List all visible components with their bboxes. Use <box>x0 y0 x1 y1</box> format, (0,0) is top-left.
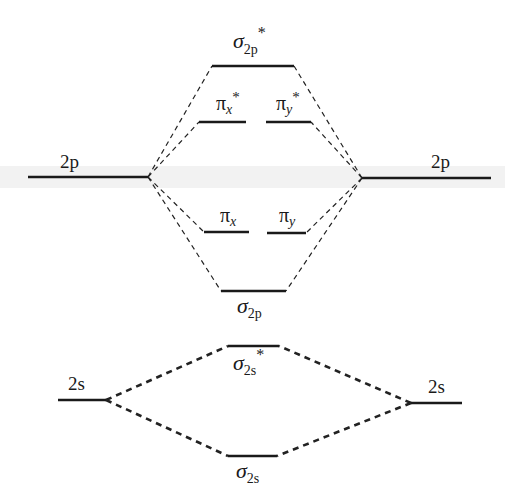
label-right-2s: 2s <box>428 376 445 397</box>
label-sigma-2p: σ2p <box>237 293 262 321</box>
label-pi-y-star: πy* <box>276 89 300 117</box>
label-left-2s: 2s <box>68 373 85 394</box>
label-sigma-2p-star: σ2p* <box>233 24 266 57</box>
mo-diagram: 2p 2p 2s 2s σ2p* πx* πy* πx πy σ2p σ2s* … <box>0 0 505 500</box>
label-sigma-2s: σ2s <box>236 458 259 486</box>
label-right-2p: 2p <box>431 151 450 172</box>
label-pi-y: πy <box>279 204 296 229</box>
label-left-2p: 2p <box>60 151 79 172</box>
label-sigma-2s-star: σ2s* <box>233 346 264 378</box>
label-pi-x: πx <box>220 204 237 229</box>
label-pi-x-star: πx* <box>216 89 240 117</box>
